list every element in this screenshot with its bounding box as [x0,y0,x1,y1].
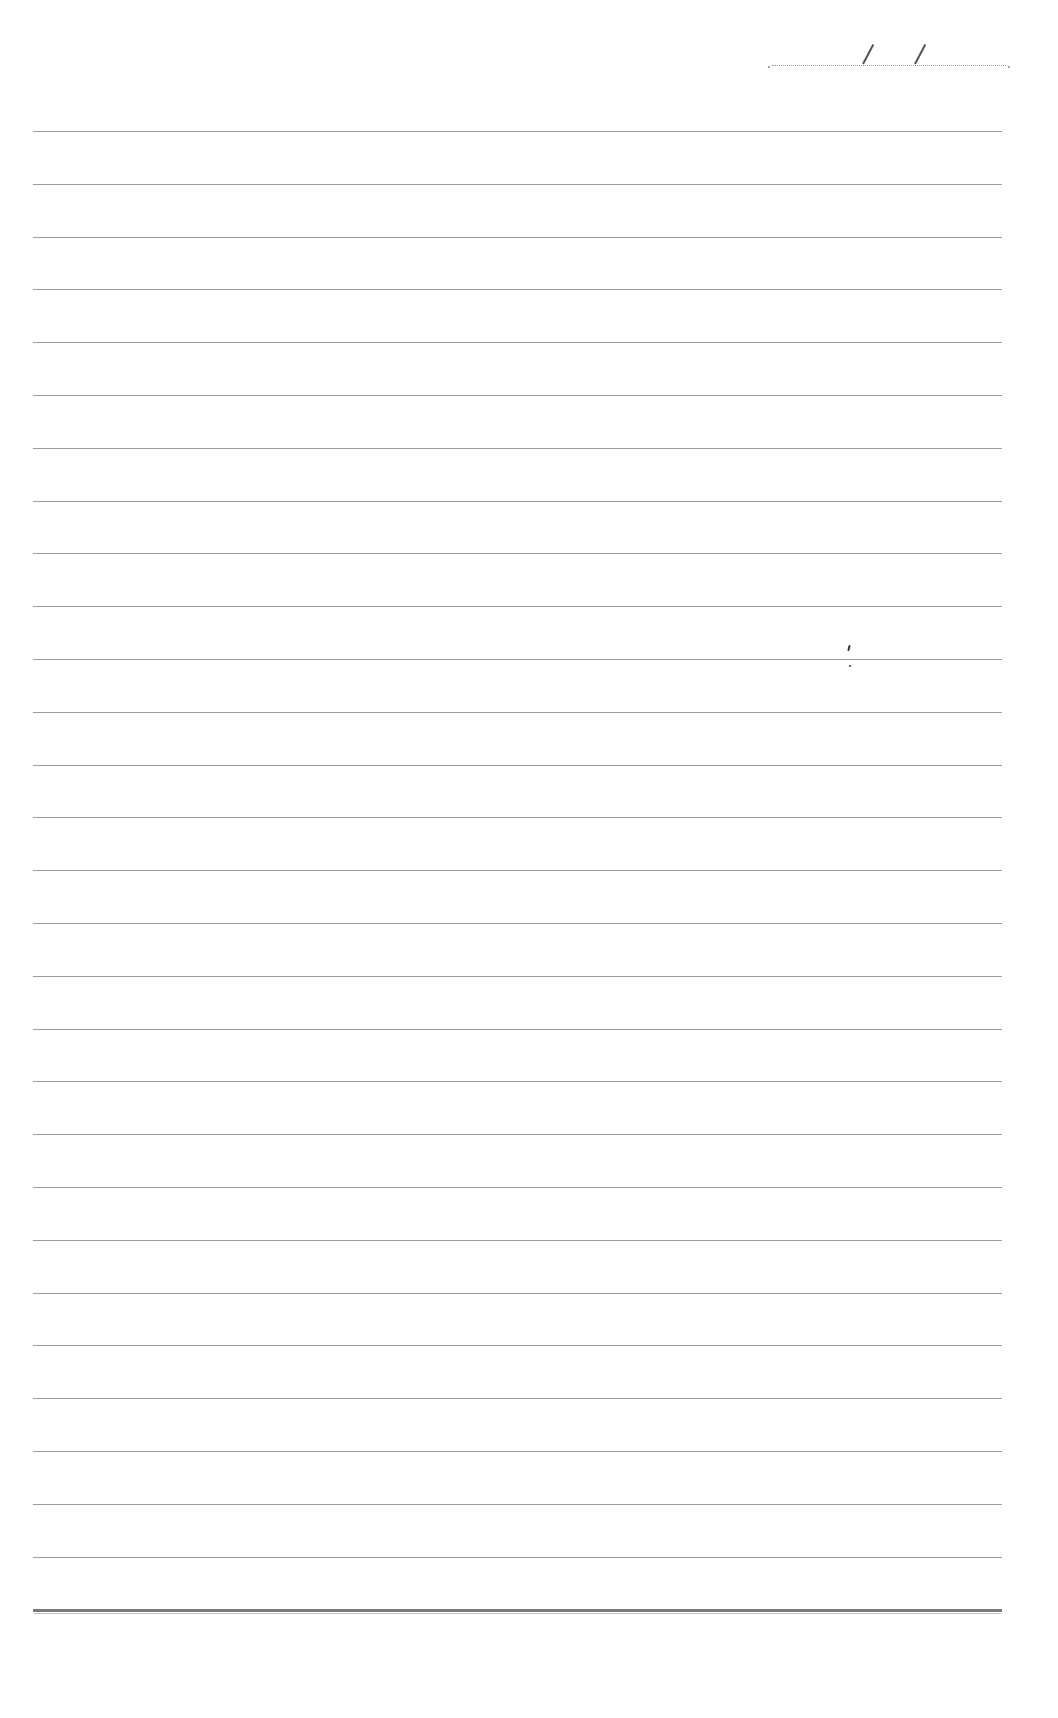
ruled-line [33,448,1002,449]
ruled-line [33,870,1002,871]
ruled-line [33,1029,1002,1030]
date-field[interactable] [772,40,1006,66]
ruled-line [33,1345,1002,1346]
ruled-line [33,1451,1002,1452]
ruled-line [33,501,1002,502]
ruled-line [33,131,1002,132]
ink-speck [847,645,850,651]
ruled-line [33,1081,1002,1082]
ruled-line [33,1240,1002,1241]
ruled-line [33,659,1002,660]
ruled-line [33,184,1002,185]
ruled-line [33,395,1002,396]
ruled-line [33,1293,1002,1294]
ruled-line [33,1187,1002,1188]
date-dotted-line [772,65,1006,66]
ruled-line [33,1134,1002,1135]
ruled-line [33,765,1002,766]
ruled-line [33,553,1002,554]
ruled-line [33,1504,1002,1505]
ruled-line [33,606,1002,607]
ruled-line [33,712,1002,713]
ink-speck [849,665,851,667]
ruled-line [33,289,1002,290]
ruled-line [33,237,1002,238]
ruled-line [33,1557,1002,1558]
date-slash-2 [914,44,926,64]
date-slash-1 [862,44,874,64]
ruled-line [33,817,1002,818]
ruled-line [33,342,1002,343]
bottom-rule-line [33,1609,1002,1612]
ruled-line [33,976,1002,977]
ruled-line [33,1398,1002,1399]
ruled-line [33,923,1002,924]
date-line-start-dot [768,66,770,68]
date-line-end-dot [1008,66,1010,68]
